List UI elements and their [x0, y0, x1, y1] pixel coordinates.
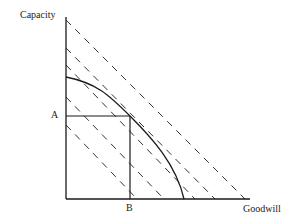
iso-value-dashed-lines — [66, 20, 245, 199]
iso-line-1 — [66, 20, 245, 199]
iso-line-5 — [66, 125, 137, 199]
frontier-curve — [66, 77, 184, 199]
x-axis-label: Goodwill — [243, 203, 281, 214]
ppf-diagram — [0, 0, 299, 224]
iso-line-2 — [66, 48, 215, 199]
y-axis-label: Capacity — [20, 9, 56, 20]
point-a-label: A — [51, 109, 58, 120]
iso-line-4 — [66, 97, 164, 199]
point-b-label: B — [126, 202, 133, 213]
